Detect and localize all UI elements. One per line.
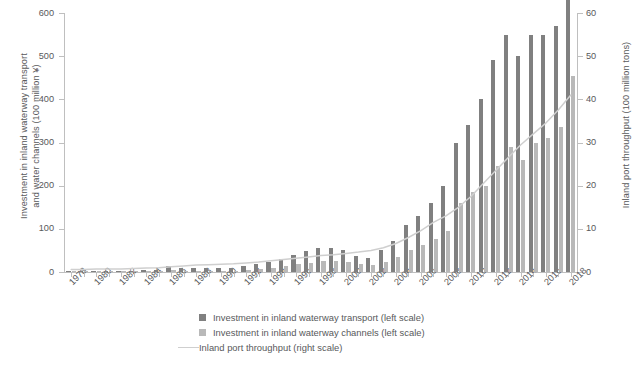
legend-item-throughput: Inland port throughput (right scale) <box>199 340 425 355</box>
x-tick <box>284 273 285 277</box>
x-tick <box>358 273 359 277</box>
x-tick <box>84 273 85 277</box>
x-tick <box>209 273 210 277</box>
x-tick <box>483 273 484 277</box>
y-tick-right <box>578 229 583 230</box>
y-tick-left <box>59 272 64 273</box>
x-tick <box>533 273 534 277</box>
y-tick-label-right: 10 <box>586 224 626 233</box>
chart-container: Investment in inland waterway transport … <box>0 0 635 371</box>
legend-item-transport: Investment in inland waterway transport … <box>199 310 425 325</box>
y-tick-label-left: 400 <box>14 95 54 104</box>
y-tick-label-right: 20 <box>586 181 626 190</box>
legend-swatch-light-icon <box>199 329 206 336</box>
y-tick-label-left: 100 <box>14 224 54 233</box>
y-axis-left-title: Investment in inland waterway transport … <box>18 46 42 226</box>
x-tick <box>333 273 334 277</box>
plot-area <box>65 13 577 272</box>
y-tick-label-left: 0 <box>14 268 54 277</box>
x-tick <box>134 273 135 277</box>
legend-label-channels: Investment in inland waterway channels (… <box>213 327 425 338</box>
legend-label-throughput: Inland port throughput (right scale) <box>199 342 342 353</box>
x-tick <box>309 273 310 277</box>
y-tick-label-left: 300 <box>14 138 54 147</box>
y-tick-right <box>578 99 583 100</box>
x-tick <box>383 273 384 277</box>
legend-label-transport: Investment in inland waterway transport … <box>213 312 424 323</box>
y-tick-label-right: 60 <box>586 9 626 18</box>
x-tick <box>159 273 160 277</box>
legend-line-icon <box>185 344 192 351</box>
y-tick-right <box>578 13 583 14</box>
x-tick <box>234 273 235 277</box>
x-tick <box>408 273 409 277</box>
y-tick-left <box>59 143 64 144</box>
y-tick-left <box>59 99 64 100</box>
x-tick <box>458 273 459 277</box>
y-tick-right <box>578 186 583 187</box>
y-tick-label-right: 0 <box>586 268 626 277</box>
throughput-line <box>65 13 577 272</box>
y-tick-right <box>578 143 583 144</box>
x-tick <box>558 273 559 277</box>
x-tick <box>109 273 110 277</box>
y-tick-right <box>578 56 583 57</box>
legend-swatch-dark-icon <box>199 314 206 321</box>
y-tick-label-left: 200 <box>14 181 54 190</box>
y-tick-left <box>59 13 64 14</box>
y-tick-label-right: 50 <box>586 52 626 61</box>
y-tick-label-right: 40 <box>586 95 626 104</box>
x-tick <box>259 273 260 277</box>
x-tick <box>508 273 509 277</box>
y-tick-left <box>59 186 64 187</box>
y-tick-label-left: 500 <box>14 52 54 61</box>
y-tick-label-left: 600 <box>14 9 54 18</box>
chart-legend: Investment in inland waterway transport … <box>199 310 425 355</box>
legend-item-channels: Investment in inland waterway channels (… <box>199 325 425 340</box>
y-tick-left <box>59 229 64 230</box>
x-tick <box>184 273 185 277</box>
y-tick-left <box>59 56 64 57</box>
x-tick <box>433 273 434 277</box>
y-tick-label-right: 30 <box>586 138 626 147</box>
